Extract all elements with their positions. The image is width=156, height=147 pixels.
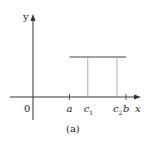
x-axis-label: x: [135, 103, 141, 114]
point-label-b: b: [123, 103, 129, 114]
origin-label: 0: [24, 103, 30, 114]
point-subscript-c1: 1: [89, 109, 93, 116]
point-subscript-c2: 2: [118, 109, 122, 116]
constant-function-diagram: y x 0 a c 1 c 2 b (a): [0, 0, 156, 147]
x-axis-arrow-icon: [134, 95, 141, 100]
y-axis-arrow-icon: [31, 14, 36, 21]
point-label-a: a: [67, 103, 73, 114]
y-axis-label: y: [22, 11, 29, 22]
figure-caption: (a): [66, 123, 80, 134]
